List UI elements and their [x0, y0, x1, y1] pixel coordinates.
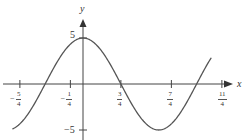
x-tick-label: −54 [16, 91, 22, 108]
x-tick-label: 114 [218, 91, 227, 108]
y-axis-arrow-icon [80, 19, 87, 27]
x-tick-label: 34 [117, 91, 123, 108]
chart-plot-area [0, 0, 250, 140]
y-tick-label-neg5: −5 [64, 125, 75, 135]
x-axis-label: x [237, 79, 241, 89]
y-tick-label-5: 5 [70, 30, 75, 40]
x-tick-label: 74 [167, 91, 173, 108]
y-axis-label: y [80, 4, 84, 14]
x-axis-arrow-icon [224, 81, 233, 88]
x-tick-label: −14 [66, 91, 72, 108]
